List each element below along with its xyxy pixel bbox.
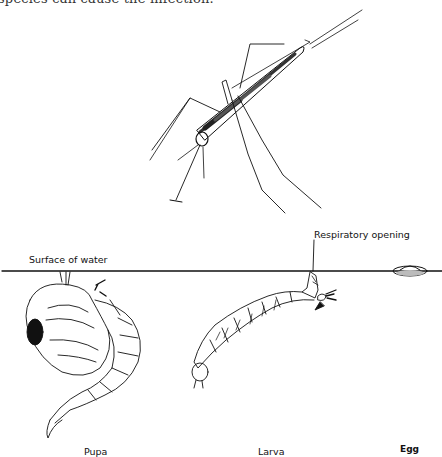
respiratory-opening-label: Respiratory opening	[314, 229, 410, 240]
larva-label: Larva	[258, 446, 284, 457]
adult-mosquito-drawing	[150, 10, 362, 213]
pupa-label: Pupa	[84, 446, 107, 457]
pupa-drawing	[26, 272, 140, 438]
larva-drawing	[192, 240, 336, 388]
egg-label: Egg	[400, 444, 419, 454]
surface-of-water-label: Surface of water	[29, 254, 107, 265]
